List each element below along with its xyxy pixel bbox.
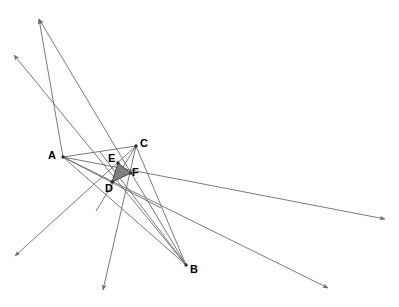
geometry-canvas	[0, 0, 399, 307]
vertex-label-c: C	[140, 138, 148, 149]
vertex-label-f: F	[132, 167, 139, 178]
cevians-group	[63, 146, 186, 265]
ray-B-to-top-left-upper	[39, 19, 186, 265]
vertex-dot-b	[184, 263, 187, 266]
vertex-dot-a	[61, 155, 64, 158]
side-CB	[136, 146, 186, 265]
vertex-label-b: B	[190, 264, 198, 275]
vertex-dot-e	[116, 161, 119, 164]
vertex-dot-c	[134, 144, 137, 147]
vertex-label-d: D	[105, 183, 113, 194]
rays-group	[14, 19, 385, 290]
geometry-diagram: A B C D E F	[0, 0, 399, 307]
vertex-label-e: E	[108, 153, 115, 164]
vertex-label-a: A	[48, 150, 56, 161]
